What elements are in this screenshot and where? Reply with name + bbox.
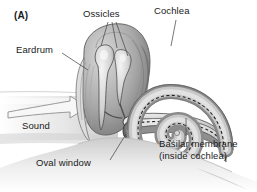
label-eardrum: Eardrum [16, 44, 53, 55]
label-basilar-membrane-line1: Basilar membrane [159, 138, 238, 149]
label-oval-window: Oval window [36, 157, 91, 168]
ear-anatomy-figure: (A) Ossicles Cochlea Eardrum Sound Oval … [0, 0, 257, 192]
label-cochlea: Cochlea [154, 5, 190, 16]
label-sound: Sound [22, 120, 50, 131]
label-basilar-membrane-line2: (inside cochlea) [159, 150, 227, 161]
leader-cochlea [171, 20, 176, 46]
label-ossicles: Ossicles [83, 8, 120, 19]
panel-label: (A) [14, 10, 28, 21]
